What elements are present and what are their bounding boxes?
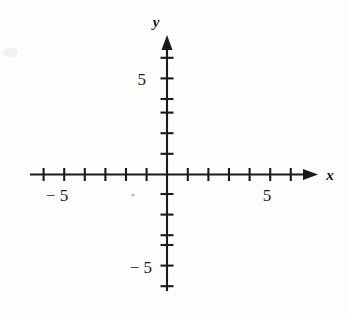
scan-artifact-speck: [131, 193, 134, 196]
x-axis-arrow-head: [303, 169, 318, 180]
coordinate-axes-svg: y x 5 − 5 − 5 5: [0, 0, 347, 319]
y-axis-group: [161, 35, 174, 291]
coordinate-plane-figure: y x 5 − 5 − 5 5: [0, 0, 347, 319]
y-axis-name-label: y: [151, 14, 160, 30]
y-axis-tick-label-negative-five: − 5: [130, 258, 152, 277]
y-axis-arrow-head: [162, 35, 173, 50]
x-axis-tick-label-negative-five: − 5: [46, 186, 68, 205]
x-axis-group: [30, 168, 318, 181]
x-axis-tick-label-positive-five: 5: [263, 186, 272, 205]
y-axis-tick-label-positive-five: 5: [138, 70, 147, 89]
x-axis-name-label: x: [325, 167, 334, 183]
